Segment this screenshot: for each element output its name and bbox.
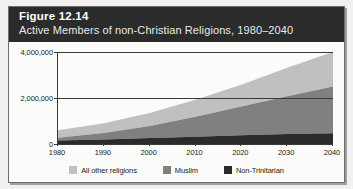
chart-plot-area (57, 52, 333, 145)
x-axis-labels: 1980 1990 2000 2010 2020 2030 2040 (57, 146, 332, 160)
x-axis-tick-label-2040: 2040 (324, 148, 340, 157)
x-tick-mark-2040 (332, 143, 333, 146)
x-tick-mark-2020 (240, 143, 241, 146)
legend-label-all-other-religions: All other religions (81, 166, 137, 175)
figure-screenshot: Figure 12.14 Active Members of non-Chris… (0, 0, 353, 189)
legend-label-muslim: Muslim (175, 166, 198, 175)
y-axis-tick-label-4000000: 4,000,000 (21, 48, 53, 57)
legend-label-non-trinitarian: Non-Trinitarian (236, 166, 284, 175)
figure-title-banner: Figure 12.14 Active Members of non-Chris… (9, 7, 344, 42)
x-axis-tick-label-1990: 1990 (95, 148, 111, 157)
legend-swatch-non-trinitarian (224, 166, 232, 174)
x-axis-tick-label-1980: 1980 (49, 148, 65, 157)
x-axis-tick-label-2010: 2010 (186, 148, 202, 157)
legend-item-non-trinitarian: Non-Trinitarian (224, 166, 284, 175)
legend-item-all-other-religions: All other religions (69, 166, 137, 175)
stacked-area-chart (58, 52, 333, 144)
figure-caption: Active Members of non-Christian Religion… (19, 23, 344, 38)
legend-swatch-all-other-religions (69, 166, 77, 174)
x-tick-mark-1980 (57, 143, 58, 146)
x-axis-tick-label-2020: 2020 (232, 148, 248, 157)
x-axis-tick-label-2000: 2000 (140, 148, 156, 157)
legend-item-muslim: Muslim (163, 166, 198, 175)
x-tick-mark-2010 (195, 143, 196, 146)
y-axis-tick-label-2000000: 2,000,000 (21, 94, 53, 103)
x-tick-mark-2000 (149, 143, 150, 146)
x-tick-mark-2030 (286, 143, 287, 146)
figure-number: Figure 12.14 (19, 10, 344, 23)
legend-swatch-muslim (163, 166, 171, 174)
x-axis-tick-label-2030: 2030 (278, 148, 294, 157)
y-axis-labels: 4,000,000 2,000,000 0 (9, 42, 57, 152)
plot-region: 4,000,000 2,000,000 0 (9, 42, 344, 182)
chart-legend: All other religions Muslim Non-Trinitari… (9, 162, 344, 178)
figure-container: Figure 12.14 Active Members of non-Chris… (8, 6, 345, 183)
x-tick-mark-1990 (103, 143, 104, 146)
